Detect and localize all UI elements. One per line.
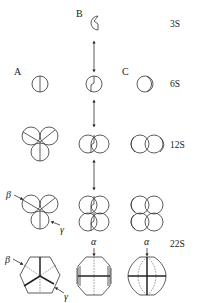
particle-assembly-diagram: B A C 3S 6S 12S 22S xyxy=(0,0,203,303)
b-12s-dimer xyxy=(79,135,109,153)
column-label-a: A xyxy=(14,66,22,77)
b-3s-half-particle xyxy=(91,16,98,30)
c-12s-dimer xyxy=(131,135,164,153)
b-22s-polyhedron: α xyxy=(77,236,111,295)
row-label-3s: 3S xyxy=(170,19,180,29)
row-label-12s: 12S xyxy=(170,140,185,150)
c-22s-polyhedron: α xyxy=(128,236,166,295)
alpha-label-c: α xyxy=(144,236,150,247)
alpha-label-b: α xyxy=(91,236,97,247)
c-22s-tetramer xyxy=(131,196,163,231)
a-22s-trimer: β γ xyxy=(5,189,65,235)
row-label-6s: 6S xyxy=(170,79,180,89)
column-label-b: B xyxy=(76,8,83,19)
a-6s-particle xyxy=(32,76,48,92)
column-label-c: C xyxy=(122,66,129,77)
a-22s-polyhedron: β γ xyxy=(4,254,69,302)
beta-label-lower: β xyxy=(4,254,10,265)
b-6s-particle xyxy=(86,76,102,92)
beta-label-upper: β xyxy=(5,189,11,200)
gamma-label-upper: γ xyxy=(60,224,65,235)
b-22s-tetramer xyxy=(79,196,109,231)
gamma-label-lower: γ xyxy=(64,291,69,302)
c-6s-particle xyxy=(137,76,153,92)
row-label-22s: 22S xyxy=(170,239,185,249)
a-12s-trimer xyxy=(22,127,58,161)
